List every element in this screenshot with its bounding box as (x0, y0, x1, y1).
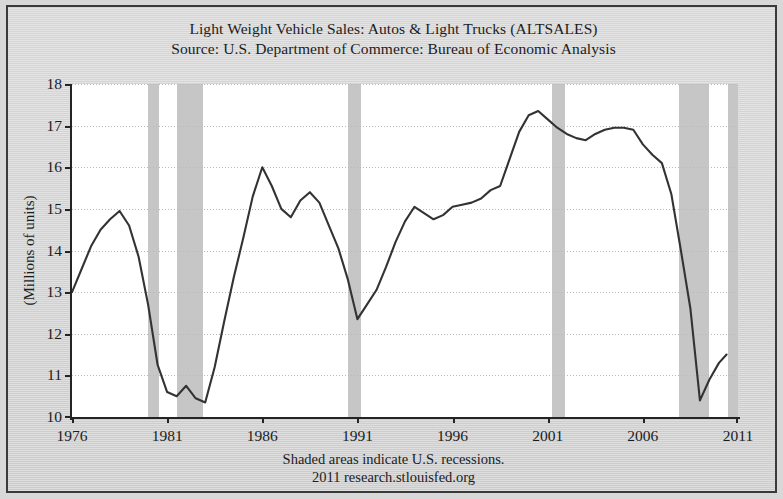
y-axis-tick (65, 209, 72, 211)
x-axis-tick-label: 1991 (342, 427, 373, 445)
chart-subtitle: Source: U.S. Department of Commerce: Bur… (8, 39, 779, 59)
x-axis-tick-label: 1981 (152, 427, 183, 445)
y-axis-tick-label: 11 (47, 366, 62, 384)
y-axis-tick-label: 16 (47, 158, 63, 176)
y-axis-tick (65, 416, 72, 418)
x-axis-tick-label: 1976 (57, 427, 88, 445)
x-axis-tick-label: 2001 (532, 427, 563, 445)
y-axis-tick (65, 167, 72, 169)
y-axis-tick-label: 10 (47, 408, 63, 426)
y-axis-label-text: (Millions of units) (21, 195, 38, 305)
x-axis-tick-label: 1986 (247, 427, 278, 445)
plot-wrapper: 101112131415161718 197619811986199119962… (72, 84, 738, 417)
chart-title-block: Light Weight Vehicle Sales: Autos & Ligh… (8, 19, 779, 60)
x-axis-tick (72, 417, 74, 423)
chart-footer-block: Shaded areas indicate U.S. recessions. 2… (8, 451, 779, 486)
x-axis-tick (357, 417, 359, 423)
y-axis-tick (65, 84, 72, 86)
x-axis-tick (736, 417, 738, 423)
chart-title: Light Weight Vehicle Sales: Autos & Ligh… (8, 19, 779, 39)
y-axis-tick-label: 17 (47, 117, 63, 135)
y-axis-tick-label: 18 (47, 75, 63, 93)
chart-figure: Light Weight Vehicle Sales: Autos & Ligh… (0, 0, 783, 499)
x-axis-tick-label: 1996 (437, 427, 468, 445)
y-axis-tick (65, 334, 72, 336)
y-axis-tick (65, 375, 72, 377)
y-axis-tick-label: 15 (47, 200, 63, 218)
y-axis-label: (Millions of units) (18, 84, 40, 417)
x-axis-tick-label: 2006 (627, 427, 658, 445)
y-axis-tick (65, 292, 72, 294)
footer-source-note: 2011 research.stlouisfed.org (8, 469, 779, 487)
x-axis-tick (548, 417, 550, 423)
y-axis-tick (65, 251, 72, 253)
x-axis-tick (643, 417, 645, 423)
y-axis-tick (65, 126, 72, 128)
y-axis-tick-label: 13 (47, 283, 63, 301)
y-axis-tick-label: 14 (47, 242, 63, 260)
figure-frame: Light Weight Vehicle Sales: Autos & Ligh… (6, 5, 777, 493)
x-axis-tick (453, 417, 455, 423)
x-axis-line (70, 417, 740, 419)
data-series-line (72, 84, 738, 417)
y-axis-tick-label: 12 (47, 325, 63, 343)
x-axis-tick-label: 2011 (723, 427, 753, 445)
x-axis-tick (167, 417, 169, 423)
footer-recession-note: Shaded areas indicate U.S. recessions. (8, 451, 779, 469)
x-axis-tick (262, 417, 264, 423)
plot-area (72, 84, 738, 417)
